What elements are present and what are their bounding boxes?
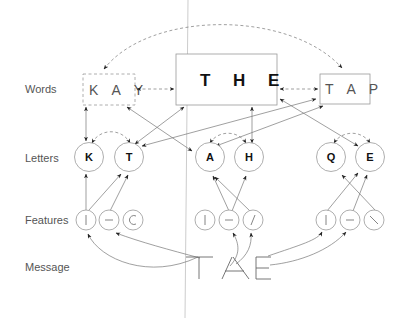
feature-node-3-horizontal xyxy=(340,210,360,230)
row-label-message: Message xyxy=(25,261,70,273)
message-glyphs xyxy=(186,257,271,279)
edge-f2c-a xyxy=(215,177,251,212)
fold-line xyxy=(185,0,188,318)
word-recognition-diagram: Words Letters Features Message K A Y T H… xyxy=(0,0,406,318)
feature-node-2-vertical xyxy=(195,210,215,230)
edge-msg-f1a xyxy=(88,234,198,267)
feature-node-2-horizontal xyxy=(219,210,239,230)
svg-text:T A P: T A P xyxy=(325,81,383,97)
svg-text:K: K xyxy=(85,151,93,163)
word-node-kay: K A Y xyxy=(83,74,148,105)
feature-node-2-slash xyxy=(243,210,263,230)
svg-text:T: T xyxy=(126,151,133,163)
svg-text:K A Y: K A Y xyxy=(89,82,148,98)
feature-node-1-horizontal xyxy=(99,210,119,230)
word-node-tap: T A P xyxy=(320,74,383,104)
svg-text:A: A xyxy=(206,151,214,163)
letter-node-h: H xyxy=(235,143,264,172)
edge-k-t xyxy=(92,132,130,143)
edge-the-e xyxy=(280,99,358,146)
letter-node-a: A xyxy=(196,143,225,172)
edge-f3c-q xyxy=(342,175,375,210)
letter-node-k: K xyxy=(75,143,104,172)
edge-f2b-a xyxy=(213,176,229,211)
edge-tap-a xyxy=(216,106,323,146)
row-label-letters: Letters xyxy=(25,152,59,164)
edge-msg-f1b xyxy=(116,233,200,258)
feature-node-1-curve xyxy=(123,210,143,230)
feature-node-1-vertical xyxy=(76,210,96,230)
letter-node-t: T xyxy=(115,143,144,172)
svg-text:H: H xyxy=(245,151,253,163)
edge-f1a-t xyxy=(89,174,121,210)
edge-msg-f3a xyxy=(268,232,322,256)
letter-node-q: Q xyxy=(317,143,346,172)
row-label-words: Words xyxy=(25,83,57,95)
edge-msg-f3b xyxy=(270,232,346,265)
svg-text:T H E: T H E xyxy=(200,71,288,90)
svg-text:Q: Q xyxy=(327,151,336,163)
edge-f1b-t xyxy=(110,175,128,211)
row-label-features: Features xyxy=(25,214,69,226)
word-node-the: T H E xyxy=(176,54,288,105)
edge-the-t xyxy=(135,107,184,144)
feature-node-3-vertical xyxy=(316,210,336,230)
edge-f3a-e xyxy=(327,173,358,211)
feature-node-3-backslash xyxy=(364,210,384,230)
svg-text:E: E xyxy=(366,151,373,163)
edge-f3b-e xyxy=(353,175,367,211)
letter-node-e: E xyxy=(356,143,385,172)
edge-tap-t xyxy=(142,99,316,146)
edge-f2b-h xyxy=(232,176,246,211)
edge-msg-f2b xyxy=(230,233,238,266)
